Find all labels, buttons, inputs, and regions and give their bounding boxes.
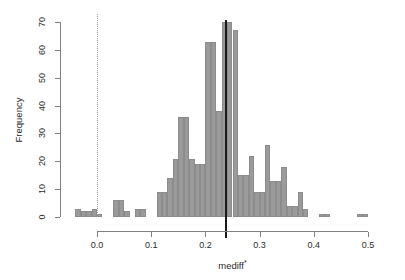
y-tick-mark — [55, 161, 60, 162]
x-tick-mark — [151, 232, 152, 237]
y-tick-label: 20 — [36, 150, 48, 172]
x-axis-title-superscript: * — [244, 259, 247, 266]
y-tick-label: 50 — [36, 67, 48, 89]
histogram-bar — [303, 209, 308, 217]
x-tick-label: 0.2 — [185, 240, 225, 250]
y-tick-label: 0 — [36, 206, 48, 228]
y-axis-title: Frequency — [12, 60, 26, 180]
zero-line — [97, 14, 98, 217]
x-tick-mark — [97, 232, 98, 237]
histogram-bar — [325, 214, 330, 217]
y-tick-label: 70 — [36, 11, 48, 33]
x-tick-label: 0.1 — [131, 240, 171, 250]
y-tick-mark — [55, 22, 60, 23]
observed-line — [225, 20, 227, 238]
x-tick-mark — [260, 232, 261, 237]
x-tick-mark — [368, 232, 369, 237]
y-tick-label: 40 — [36, 95, 48, 117]
x-tick-mark — [314, 232, 315, 237]
x-tick-label: 0.4 — [294, 240, 334, 250]
plot-panel: 010203040506070 Frequency 0.00.10.20.30.… — [0, 0, 405, 280]
y-tick-mark — [55, 78, 60, 79]
histogram-bar — [140, 209, 145, 217]
x-tick-mark — [205, 232, 206, 237]
x-axis-line — [97, 231, 368, 232]
x-tick-label: 0.3 — [240, 240, 280, 250]
x-axis-title-base: mediff — [218, 260, 244, 271]
histogram-bar — [124, 211, 129, 217]
x-tick-label: 0.0 — [77, 240, 117, 250]
x-axis-title: mediff* — [133, 259, 333, 271]
y-axis-line — [60, 22, 61, 217]
y-tick-label: 10 — [36, 178, 48, 200]
y-tick-mark — [55, 189, 60, 190]
y-tick-mark — [55, 50, 60, 51]
histogram-bar — [363, 214, 368, 217]
x-tick-label: 0.5 — [348, 240, 388, 250]
y-tick-mark — [55, 217, 60, 218]
y-tick-label: 30 — [36, 122, 48, 144]
histogram-plot: 010203040506070 Frequency 0.00.10.20.30.… — [0, 0, 405, 280]
y-tick-label: 60 — [36, 39, 48, 61]
y-tick-mark — [55, 106, 60, 107]
y-tick-mark — [55, 133, 60, 134]
